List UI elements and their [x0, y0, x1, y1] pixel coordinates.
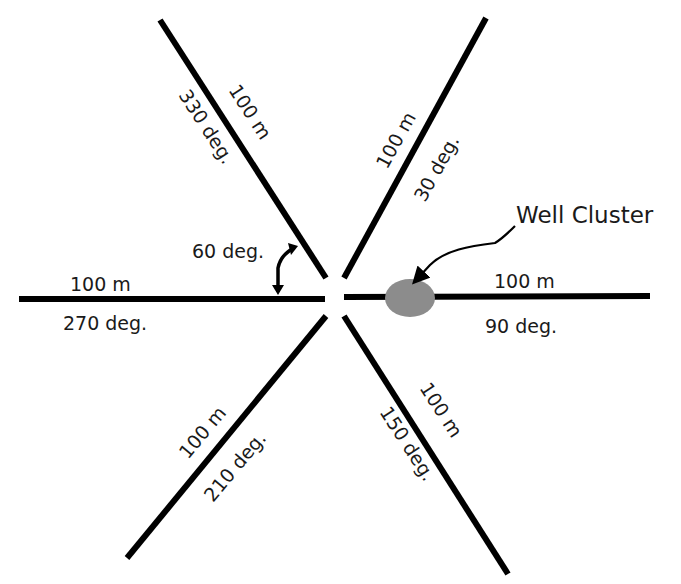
transect-90-length-label: 100 m: [494, 270, 555, 292]
transect-line-150: [344, 316, 508, 574]
transect-210-length-label: 100 m: [174, 402, 230, 463]
transect-diagram: Well Cluster 60 deg. 100 m 270 deg. 100 …: [0, 0, 681, 584]
transect-90-bearing-label: 90 deg.: [485, 315, 557, 337]
angle-label: 60 deg.: [192, 240, 264, 262]
transect-line-210: [127, 316, 326, 558]
transect-150-length-label: 100 m: [416, 378, 468, 441]
well-cluster-marker: [385, 279, 435, 317]
angle-arrow-head-top: [288, 243, 298, 255]
well-cluster-label: Well Cluster: [516, 202, 654, 228]
transect-30-length-label: 100 m: [371, 108, 420, 172]
transect-270-bearing-label: 270 deg.: [63, 312, 147, 334]
transect-270-length-label: 100 m: [70, 273, 131, 295]
transect-line-30: [344, 18, 486, 278]
angle-arrow-head-bottom: [272, 285, 284, 295]
